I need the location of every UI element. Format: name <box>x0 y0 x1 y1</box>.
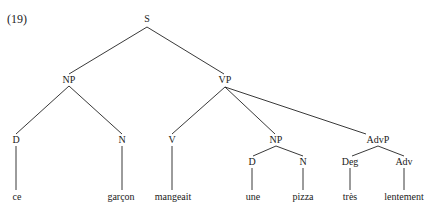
node-np-subject: NP <box>63 75 76 85</box>
edge-np-d <box>16 86 69 134</box>
node-d-subject: D <box>12 135 19 145</box>
leaf-lentement: lentement <box>384 192 423 202</box>
tree-edges <box>0 0 431 204</box>
edge-s-vp <box>147 27 224 74</box>
leaf-ce: ce <box>13 192 22 202</box>
node-v: V <box>168 135 175 145</box>
leaf-garcon: garçon <box>107 192 134 202</box>
edge-s-np <box>69 27 147 74</box>
edge-vp-v <box>172 87 225 134</box>
node-adv: Adv <box>395 157 412 167</box>
node-advp: AdvP <box>367 135 390 145</box>
node-d-object: D <box>248 157 255 167</box>
edge-np-n <box>69 86 122 134</box>
edge-vp-np <box>225 87 275 134</box>
edge-advp-deg <box>352 146 378 156</box>
leaf-mangeait: mangeait <box>155 192 192 202</box>
leaf-tres: très <box>343 192 357 202</box>
node-n-object: N <box>299 157 306 167</box>
edge-advp-adv <box>378 146 404 156</box>
leaf-une: une <box>246 192 260 202</box>
node-n-subject: N <box>118 135 125 145</box>
edge-np2-n <box>276 146 303 156</box>
leaf-pizza: pizza <box>292 192 313 202</box>
edge-np2-d <box>253 146 276 156</box>
node-deg: Deg <box>342 157 359 167</box>
edge-vp-advp <box>225 87 366 134</box>
node-np-object: NP <box>270 135 283 145</box>
node-s: S <box>144 14 150 24</box>
node-vp: VP <box>219 75 232 85</box>
example-number: (19) <box>7 13 27 25</box>
